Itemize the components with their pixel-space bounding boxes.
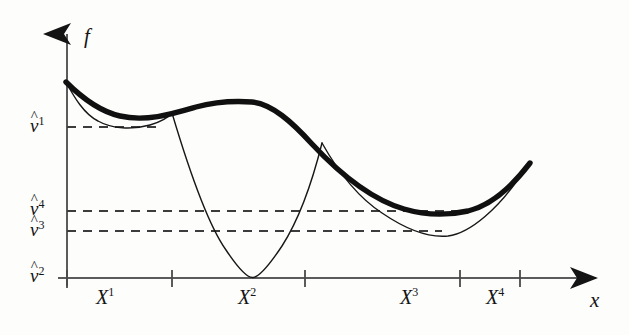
x-tick-label-X3-base: X <box>400 286 412 308</box>
v-hat-2-glyph: ^v <box>30 266 38 285</box>
x-tick-label-X3-sup: 3 <box>412 285 418 299</box>
x-tick-label-X4-base: X <box>486 286 498 308</box>
v-hat-1-glyph: ^v <box>30 116 38 135</box>
y-level-label-v-hat-3: ^v3 <box>30 219 44 239</box>
y-level-label-v-hat-2: ^v2 <box>30 265 44 285</box>
x-tick-label-X1: X1 <box>96 286 114 307</box>
lower-envelope-thin-curve <box>66 82 530 278</box>
v-hat-2-sup: 2 <box>38 264 44 278</box>
figure-svg <box>0 0 629 335</box>
v-hat-4-sup: 4 <box>38 197 44 211</box>
x-tick-label-X2: X2 <box>238 286 256 307</box>
y-axis-label: f <box>84 26 90 47</box>
x-tick-label-X2-sup: 2 <box>250 285 256 299</box>
thin-segment-1 <box>66 82 172 128</box>
thin-segment-2 <box>172 113 322 278</box>
v-hat-3-glyph: ^v <box>30 220 38 239</box>
x-tick-label-X3: X3 <box>400 286 418 307</box>
v-hat-4-hat: ^ <box>31 192 38 207</box>
x-tick-label-X1-sup: 1 <box>108 285 114 299</box>
v-hat-1-hat: ^ <box>31 109 38 124</box>
x-tick-label-X1-base: X <box>96 286 108 308</box>
v-hat-2-hat: ^ <box>31 259 38 274</box>
v-hat-1-sup: 1 <box>38 114 44 128</box>
v-hat-3-sup: 3 <box>38 218 44 232</box>
x-tick-label-X4-sup: 4 <box>498 285 504 299</box>
x-tick-label-X2-base: X <box>238 286 250 308</box>
x-tick-label-X4: X4 <box>486 286 504 307</box>
thin-segment-3 <box>322 143 530 236</box>
f-thick-curve <box>66 82 530 214</box>
value-level-dashed-lines <box>67 127 462 231</box>
y-level-label-v-hat-1: ^v1 <box>30 115 44 135</box>
x-axis-label: x <box>590 290 599 311</box>
v-hat-3-hat: ^ <box>31 213 38 228</box>
figure-container: f x X1 X2 X3 X4 ^v1 ^v4 ^v3 ^v2 <box>0 0 629 335</box>
